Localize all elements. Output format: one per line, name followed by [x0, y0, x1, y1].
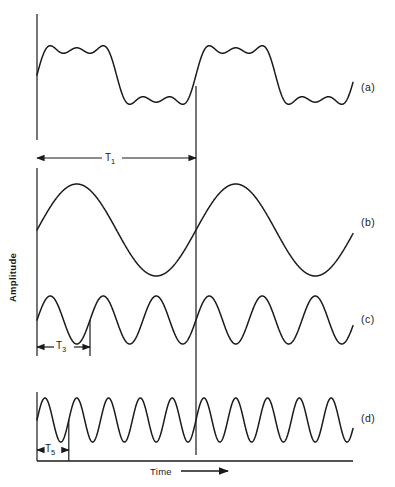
period-sub-t3: 3: [62, 345, 66, 354]
period-label-t3: T3: [56, 340, 66, 354]
waveform-trace-c: [37, 296, 353, 344]
trace-label-a: (a): [361, 81, 375, 93]
trace-label-b: (b): [361, 216, 375, 228]
waveform-trace-b: [37, 184, 353, 276]
waveform-group: [37, 46, 353, 442]
y-axis-title: Amplitude: [7, 242, 18, 314]
period-bracket-group: [37, 158, 196, 450]
waveform-trace-d: [37, 398, 353, 442]
period-label-t5: T5: [45, 443, 55, 457]
waveform-trace-a: [37, 46, 353, 105]
trace-label-c: (c): [361, 313, 375, 325]
figure-root: (a) (b) (c) (d) T1 T3 T5 Amplitude Time: [0, 0, 395, 487]
x-axis-title: Time: [150, 466, 172, 477]
period-label-t1: T1: [105, 152, 115, 166]
period-sub-t1: 1: [111, 157, 115, 166]
period-sub-t5: 5: [51, 448, 55, 457]
waveform-plot: [0, 0, 395, 487]
reference-line-group: [37, 14, 196, 461]
trace-label-d: (d): [361, 412, 375, 424]
